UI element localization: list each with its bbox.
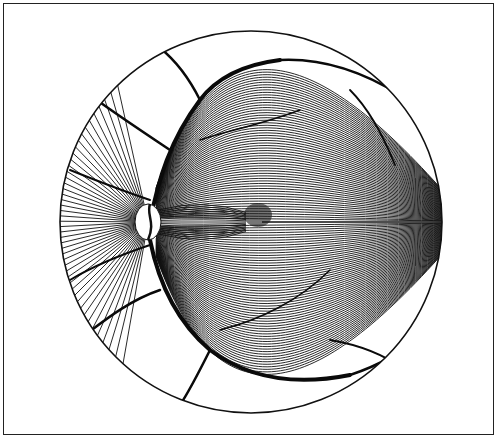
fovea [244, 203, 272, 227]
retina-illustration [0, 0, 499, 440]
